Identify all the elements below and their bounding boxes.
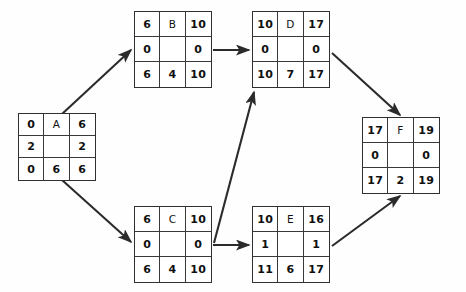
duration-cell-e: 6 <box>278 257 303 282</box>
activity-node-d[interactable]: 10D170010717 <box>252 11 330 88</box>
early-start-cell-c: 6 <box>135 207 160 232</box>
duration-cell-f: 2 <box>388 168 413 193</box>
total-float-right-cell-e: 1 <box>304 232 329 257</box>
late-finish-cell-f: 19 <box>414 168 439 193</box>
total-float-left-cell-e: 1 <box>253 232 278 257</box>
total-float-left-cell-d: 0 <box>253 37 278 62</box>
late-start-cell-f: 17 <box>363 168 388 193</box>
activity-node-f[interactable]: 17F190017219 <box>362 117 440 194</box>
total-float-left-cell-f: 0 <box>363 143 388 168</box>
total-float-left-cell-c: 0 <box>135 232 160 257</box>
early-finish-cell-d: 17 <box>304 12 329 37</box>
activity-name-cell-c: C <box>160 207 185 232</box>
late-finish-cell-e: 17 <box>304 257 329 282</box>
late-start-cell-c: 6 <box>135 257 160 282</box>
activity-name-cell-f: F <box>388 118 413 143</box>
duration-cell-c: 4 <box>160 257 185 282</box>
late-start-cell-a: 0 <box>19 158 44 180</box>
edge-a-to-b <box>62 50 131 114</box>
center-blank-cell-b <box>160 37 185 62</box>
late-finish-cell-b: 10 <box>186 62 211 87</box>
early-start-cell-e: 10 <box>253 207 278 232</box>
early-finish-cell-e: 16 <box>304 207 329 232</box>
total-float-left-cell-b: 0 <box>135 37 160 62</box>
activity-node-a[interactable]: 0A622066 <box>18 113 96 181</box>
total-float-right-cell-a: 2 <box>70 136 95 158</box>
duration-cell-d: 7 <box>278 62 303 87</box>
late-start-cell-e: 11 <box>253 257 278 282</box>
early-start-cell-d: 10 <box>253 12 278 37</box>
late-start-cell-d: 10 <box>253 62 278 87</box>
center-blank-cell-a <box>44 136 69 158</box>
activity-node-b[interactable]: 6B10006410 <box>134 11 212 88</box>
activity-name-cell-b: B <box>160 12 185 37</box>
early-start-cell-a: 0 <box>19 114 44 136</box>
edge-a-to-c <box>62 180 131 242</box>
edge-e-to-f <box>332 196 400 246</box>
late-start-cell-b: 6 <box>135 62 160 87</box>
activity-name-cell-e: E <box>278 207 303 232</box>
edge-d-to-f <box>332 53 400 115</box>
center-blank-cell-d <box>278 37 303 62</box>
duration-cell-b: 4 <box>160 62 185 87</box>
total-float-right-cell-c: 0 <box>186 232 211 257</box>
early-finish-cell-c: 10 <box>186 207 211 232</box>
center-blank-cell-c <box>160 232 185 257</box>
early-finish-cell-b: 10 <box>186 12 211 37</box>
late-finish-cell-a: 6 <box>70 158 95 180</box>
total-float-right-cell-f: 0 <box>414 143 439 168</box>
edge-c-to-d <box>214 92 254 243</box>
center-blank-cell-e <box>278 232 303 257</box>
early-finish-cell-f: 19 <box>414 118 439 143</box>
late-finish-cell-c: 10 <box>186 257 211 282</box>
late-finish-cell-d: 17 <box>304 62 329 87</box>
duration-cell-a: 6 <box>44 158 69 180</box>
center-blank-cell-f <box>388 143 413 168</box>
total-float-right-cell-d: 0 <box>304 37 329 62</box>
total-float-right-cell-b: 0 <box>186 37 211 62</box>
total-float-left-cell-a: 2 <box>19 136 44 158</box>
early-start-cell-f: 17 <box>363 118 388 143</box>
network-diagram-canvas: 0A6220666B1000641010D17001071717F1900172… <box>0 0 466 292</box>
activity-name-cell-d: D <box>278 12 303 37</box>
early-finish-cell-a: 6 <box>70 114 95 136</box>
activity-name-cell-a: A <box>44 114 69 136</box>
activity-node-e[interactable]: 10E161111617 <box>252 206 330 283</box>
activity-node-c[interactable]: 6C10006410 <box>134 206 212 283</box>
early-start-cell-b: 6 <box>135 12 160 37</box>
